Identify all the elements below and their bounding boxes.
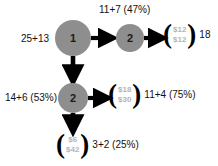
leaf-middle: ( $18 $30 ) 11+4 (75%) <box>108 84 196 105</box>
leaf-middle-close-paren: ) <box>132 84 141 105</box>
label-root-left: 25+13 <box>21 34 49 44</box>
leaf-middle-open-paren: ( <box>108 84 117 105</box>
leaf-middle-after: 11+4 (75%) <box>144 89 195 100</box>
node-root[interactable]: 1 <box>55 20 91 56</box>
label-top-branch: 11+7 (47%) <box>99 5 150 15</box>
leaf-bottom-values: $6 $42 <box>65 135 80 154</box>
leaf-top-open-paren: ( <box>163 24 172 45</box>
leaf-bottom-open-paren: ( <box>56 134 65 155</box>
decision-tree-diagram: 1 2 2 25+13 11+7 (47%) 14+6 (53%) ( $12 … <box>0 0 218 166</box>
leaf-top-close-paren: ) <box>187 24 196 45</box>
leaf-middle-value-1: $18 <box>118 85 131 94</box>
leaf-top-after: 18 <box>199 29 210 40</box>
leaf-bottom-after: 3+2 (25%) <box>92 139 138 150</box>
leaf-top-value-1: $12 <box>173 25 186 34</box>
leaf-top-values: $12 $12 <box>172 25 187 44</box>
leaf-top-value-2: $12 <box>173 35 186 44</box>
leaf-bottom-value-2: $42 <box>66 145 79 154</box>
leaf-bottom-close-paren: ) <box>80 134 89 155</box>
node-root-label: 1 <box>70 33 76 44</box>
node-top-right[interactable]: 2 <box>116 24 144 52</box>
leaf-bottom: ( $6 $42 ) 3+2 (25%) <box>56 134 139 155</box>
node-top-right-label: 2 <box>127 33 133 44</box>
leaf-middle-values: $18 $30 <box>117 85 132 104</box>
leaf-bottom-value-1: $6 <box>66 135 79 144</box>
node-middle[interactable]: 2 <box>58 83 88 113</box>
label-middle-left: 14+6 (53%) <box>5 93 57 103</box>
leaf-middle-value-2: $30 <box>118 95 131 104</box>
leaf-top: ( $12 $12 ) 18 <box>163 24 210 45</box>
node-middle-label: 2 <box>70 93 76 104</box>
